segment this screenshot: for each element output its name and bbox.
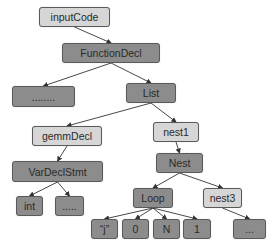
node-functionDecl: FunctionDecl bbox=[62, 43, 160, 63]
node-label: VarDeclStmt bbox=[28, 166, 86, 178]
node-label: FunctionDecl bbox=[80, 47, 141, 59]
node-label: 0 bbox=[133, 223, 139, 235]
node-label: “j” bbox=[100, 223, 109, 235]
node-label: ..... bbox=[62, 200, 77, 212]
node-label: inputCode bbox=[51, 11, 99, 23]
node-zero: 0 bbox=[122, 219, 149, 239]
node-label: Nest bbox=[169, 157, 191, 169]
node-label: Loop bbox=[141, 192, 164, 204]
edge-nest-loop bbox=[153, 173, 180, 188]
node-label: ........ bbox=[32, 91, 55, 103]
node-list: List bbox=[126, 83, 176, 103]
edge-functionDecl-list bbox=[111, 63, 151, 83]
node-gemmDecl: gemmDecl bbox=[32, 126, 102, 146]
node-one: 1 bbox=[183, 219, 211, 239]
node-label: gemmDecl bbox=[42, 130, 92, 142]
node-nest1: nest1 bbox=[153, 122, 199, 142]
node-int: int bbox=[16, 196, 43, 216]
edge-nest3-ellipsis3 bbox=[223, 208, 250, 219]
node-varDeclStmt: VarDeclStmt bbox=[12, 161, 103, 182]
node-label: N bbox=[163, 223, 171, 235]
node-label: List bbox=[143, 87, 159, 99]
node-nest: Nest bbox=[156, 153, 203, 173]
node-n: N bbox=[153, 219, 180, 239]
node-label: ... bbox=[245, 223, 254, 235]
edge-inputCode-functionDecl bbox=[75, 27, 112, 43]
node-loop: Loop bbox=[133, 188, 173, 208]
node-label: nest3 bbox=[210, 192, 236, 204]
edge-nest-nest3 bbox=[180, 173, 223, 188]
edge-list-nest1 bbox=[151, 103, 176, 122]
node-ellipsis1: ........ bbox=[12, 86, 75, 107]
node-j: “j” bbox=[91, 219, 118, 239]
edge-functionDecl-ellipsis1 bbox=[44, 63, 112, 86]
node-label: nest1 bbox=[163, 126, 189, 138]
edge-varDeclStmt-int bbox=[30, 182, 58, 196]
node-nest3: nest3 bbox=[203, 188, 242, 208]
node-ellipsis3: ... bbox=[233, 219, 266, 239]
ast-tree-diagram: inputCodeFunctionDecl........ListgemmDec… bbox=[0, 0, 278, 251]
edge-list-gemmDecl bbox=[67, 103, 151, 126]
node-label: int bbox=[24, 200, 35, 212]
node-inputCode: inputCode bbox=[39, 7, 110, 27]
edge-loop-j bbox=[105, 208, 154, 219]
node-ellipsis2: ..... bbox=[55, 196, 84, 216]
edge-gemmDecl-varDeclStmt bbox=[58, 146, 68, 161]
edge-nest1-nest bbox=[176, 142, 180, 153]
node-label: 1 bbox=[194, 223, 200, 235]
edge-varDeclStmt-ellipsis2 bbox=[58, 182, 70, 196]
